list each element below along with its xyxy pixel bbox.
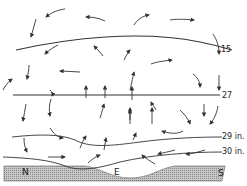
isobar-label-15: 15 [221,46,231,54]
flow-arrows [3,9,219,164]
isobar-label-27: 27 [222,92,232,100]
isobar-label-30: 30 in. [222,148,245,156]
circulation-diagram [0,0,247,186]
isobar-15 [16,36,232,50]
isobar-29 [12,135,222,145]
isobar-label-29: 29 in. [222,133,245,141]
ground-label-north: N [22,168,29,177]
ground-label-equator: E [114,168,120,177]
ground-label-south: S [218,169,224,178]
